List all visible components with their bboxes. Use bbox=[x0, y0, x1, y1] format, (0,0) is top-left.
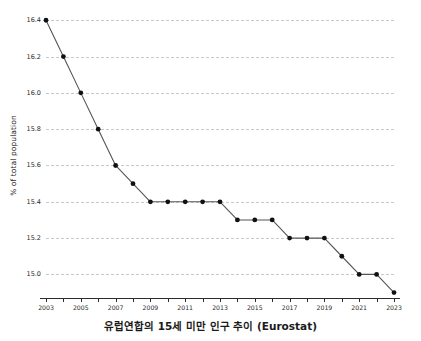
x-axis-tick bbox=[307, 298, 308, 302]
data-point-marker bbox=[200, 199, 205, 204]
x-axis-tick bbox=[220, 298, 221, 302]
x-axis-tick bbox=[168, 298, 169, 302]
data-point-marker bbox=[113, 163, 118, 168]
x-axis-tick-label: 2017 bbox=[282, 304, 298, 311]
x-axis-tick-label: 2009 bbox=[143, 304, 159, 311]
data-point-marker bbox=[61, 54, 66, 59]
y-axis-tick-label: 16.4 bbox=[27, 16, 41, 24]
y-axis-tick-label: 16.0 bbox=[27, 89, 41, 97]
y-axis-tick-label: 15.2 bbox=[27, 234, 41, 242]
x-axis-tick bbox=[133, 298, 134, 302]
series-markers bbox=[44, 18, 397, 295]
data-point-marker bbox=[44, 18, 49, 23]
data-point-marker bbox=[270, 218, 275, 223]
series-line-chart bbox=[46, 13, 394, 298]
x-axis-tick bbox=[324, 298, 325, 302]
x-axis-tick bbox=[359, 298, 360, 302]
x-axis-tick-label: 2019 bbox=[317, 304, 333, 311]
plot-area: 16.416.216.015.815.615.415.215.0 bbox=[46, 13, 394, 298]
data-point-marker bbox=[305, 236, 310, 241]
x-axis-tick bbox=[150, 298, 151, 302]
x-axis-tick-label: 2003 bbox=[38, 304, 54, 311]
chart-figure: % of total population 16.416.216.015.815… bbox=[0, 0, 421, 341]
data-point-marker bbox=[183, 199, 188, 204]
x-axis-tick-label: 2011 bbox=[177, 304, 193, 311]
x-axis-tick-label: 2023 bbox=[386, 304, 402, 311]
x-axis-tick-label: 2005 bbox=[73, 304, 89, 311]
x-axis-tick bbox=[290, 298, 291, 302]
data-point-marker bbox=[374, 272, 379, 277]
x-axis-tick bbox=[394, 298, 395, 302]
data-point-marker bbox=[339, 254, 344, 259]
y-axis-title-wrap: % of total population bbox=[0, 0, 26, 310]
x-axis-tick-label: 2007 bbox=[108, 304, 124, 311]
data-point-marker bbox=[357, 272, 362, 277]
data-point-marker bbox=[235, 218, 240, 223]
series-polyline bbox=[46, 20, 394, 292]
x-axis-tick bbox=[203, 298, 204, 302]
data-point-marker bbox=[96, 127, 101, 132]
x-axis-tick bbox=[81, 298, 82, 302]
x-axis-tick bbox=[98, 298, 99, 302]
data-point-marker bbox=[78, 90, 83, 95]
x-axis-tick-label: 2015 bbox=[247, 304, 263, 311]
data-point-marker bbox=[322, 236, 327, 241]
data-point-marker bbox=[148, 199, 153, 204]
x-axis-tick bbox=[46, 298, 47, 302]
x-axis-tick bbox=[237, 298, 238, 302]
x-axis-tick bbox=[185, 298, 186, 302]
x-axis-tick bbox=[272, 298, 273, 302]
x-axis-tick bbox=[342, 298, 343, 302]
x-axis-tick-label: 2021 bbox=[351, 304, 367, 311]
data-point-marker bbox=[218, 199, 223, 204]
data-point-marker bbox=[131, 181, 136, 186]
data-point-marker bbox=[165, 199, 170, 204]
y-axis-tick-label: 16.2 bbox=[27, 53, 41, 61]
x-axis-tick bbox=[116, 298, 117, 302]
x-axis-tick bbox=[63, 298, 64, 302]
y-axis-tick-label: 15.6 bbox=[27, 161, 41, 169]
x-axis-tick-label: 2013 bbox=[212, 304, 228, 311]
data-point-marker bbox=[392, 290, 397, 295]
y-axis-tick-label: 15.0 bbox=[27, 270, 41, 278]
y-axis-tick-label: 15.8 bbox=[27, 125, 41, 133]
x-axis-tick bbox=[255, 298, 256, 302]
y-axis-tick-label: 15.4 bbox=[27, 198, 41, 206]
data-point-marker bbox=[252, 218, 257, 223]
y-axis-title: % of total population bbox=[9, 115, 18, 196]
chart-caption: 유럽연합의 15세 미만 인구 추이 (Eurostat) bbox=[0, 318, 421, 333]
data-point-marker bbox=[287, 236, 292, 241]
x-axis-tick bbox=[377, 298, 378, 302]
